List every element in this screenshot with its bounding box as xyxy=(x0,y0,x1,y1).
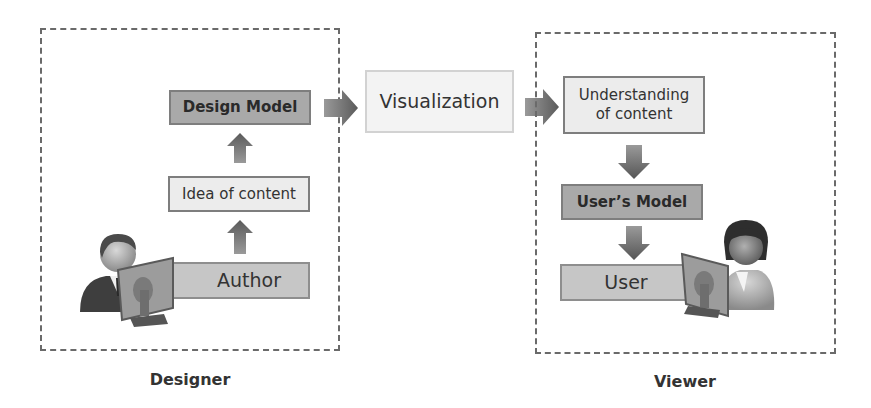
idea-of-content-label: Idea of content xyxy=(182,185,296,204)
arrow-up-icon xyxy=(227,220,253,254)
understanding-label-line1: Understanding xyxy=(579,86,690,105)
arrow-down-icon xyxy=(618,145,650,179)
understanding-box: Understanding of content xyxy=(563,76,705,134)
arrow-down-icon xyxy=(618,226,650,260)
visualization-box: Visualization xyxy=(365,70,514,133)
author-box: Author xyxy=(168,262,310,299)
users-model-label: User’s Model xyxy=(577,193,687,212)
user-label: User xyxy=(604,271,647,295)
visualization-label: Visualization xyxy=(379,90,499,114)
understanding-label-line2: of content xyxy=(596,105,673,124)
design-model-label: Design Model xyxy=(183,98,298,117)
author-person-icon xyxy=(78,230,178,328)
users-model-box: User’s Model xyxy=(561,184,703,220)
arrow-up-icon xyxy=(227,133,253,163)
designer-caption: Designer xyxy=(130,370,250,389)
idea-of-content-box: Idea of content xyxy=(168,176,310,212)
author-label: Author xyxy=(217,269,281,293)
viewer-caption: Viewer xyxy=(625,372,745,391)
design-model-box: Design Model xyxy=(169,90,311,125)
user-person-icon xyxy=(680,220,780,320)
arrow-right-icon xyxy=(324,90,358,126)
